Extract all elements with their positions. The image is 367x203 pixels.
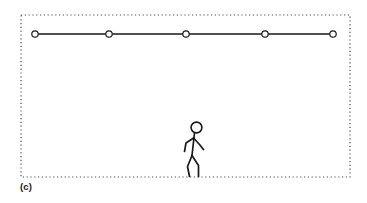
waypoint-node[interactable] xyxy=(183,31,189,37)
waypoint-node[interactable] xyxy=(262,31,268,37)
waypoint-node[interactable] xyxy=(32,31,38,37)
stick-figure-arm-front xyxy=(194,138,204,150)
stick-figure-leg-back xyxy=(188,156,193,177)
walking-stick-figure xyxy=(185,122,204,176)
stick-figure-torso xyxy=(192,133,195,156)
figure-canvas xyxy=(0,0,367,203)
workspace-boundary xyxy=(21,15,350,177)
stick-figure-leg-front xyxy=(192,156,199,177)
panel-label: (c) xyxy=(20,182,32,192)
waypoint-node[interactable] xyxy=(330,31,336,37)
stick-figure-head-icon xyxy=(191,122,202,133)
waypoint-node[interactable] xyxy=(106,31,112,37)
figure-panel-c: (c) xyxy=(0,0,367,203)
